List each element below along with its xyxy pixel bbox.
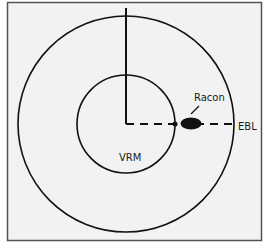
ebl-label: EBL	[238, 121, 257, 132]
vrm-label: VRM	[119, 152, 141, 163]
diagram-frame	[8, 3, 262, 241]
vrm-ebl-intersection-dot	[173, 122, 178, 127]
racon-echo	[181, 118, 202, 130]
radar-diagram: Racon VRM EBL	[0, 0, 268, 249]
racon-label: Racon	[194, 92, 225, 103]
